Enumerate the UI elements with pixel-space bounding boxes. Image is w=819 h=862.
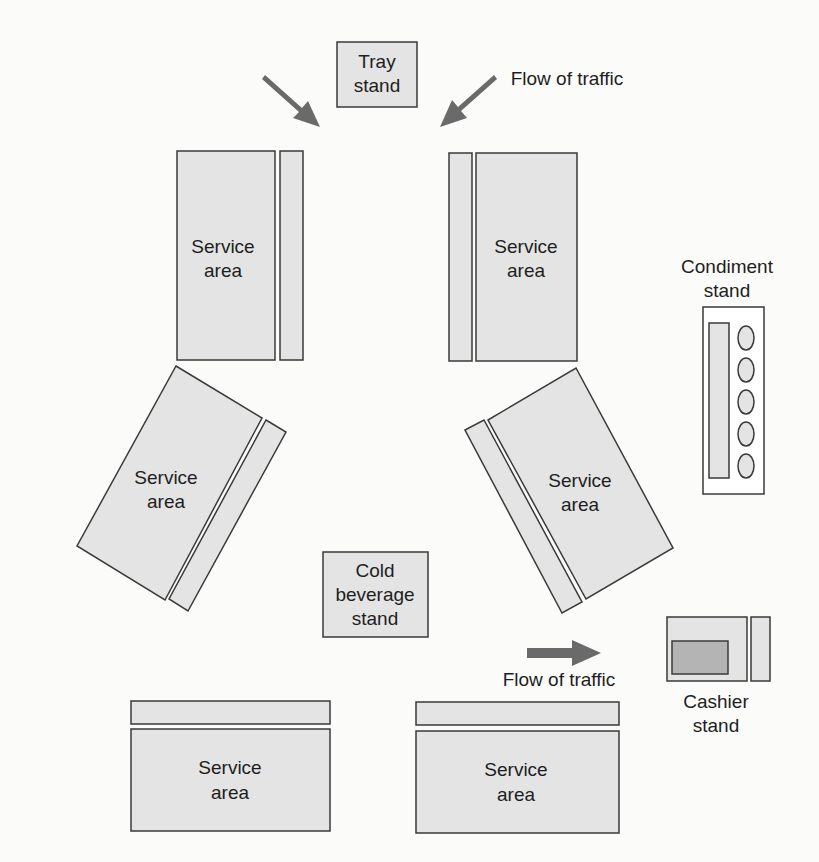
service-area-label-2: area [507,260,545,281]
condiment-stand: Condiment stand [681,256,774,494]
condiment-container [738,422,754,446]
flow-arrow-top-left [262,75,320,127]
cashier-counter-strip [751,617,770,681]
cashier-stand-label-1: Cashier [683,691,749,712]
serving-counter-strip [416,702,619,725]
cash-register [672,641,728,674]
service-area-label-2: area [147,491,185,512]
service-area-mid-right: Service area [465,368,673,613]
cashier-stand-label-2: stand [693,715,739,736]
serving-counter-strip [280,151,303,360]
flow-arrow-top-right [440,75,497,127]
flow-of-traffic-label-bottom: Flow of traffic [503,669,616,690]
service-area-label-1: Service [191,236,254,257]
serving-counter-strip [449,153,472,361]
cold-beverage-stand: Cold beverage stand [323,552,428,637]
service-area-label-1: Service [494,236,557,257]
service-area-label-1: Service [548,470,611,491]
condiment-container [738,358,754,382]
serving-counter-strip [131,701,330,724]
condiment-stand-label-1: Condiment [681,256,774,277]
service-area-label-1: Service [484,759,547,780]
service-area-label-2: area [497,784,535,805]
service-area-label-2: area [204,260,242,281]
service-area-label-2: area [211,782,249,803]
service-area-mid-left: Service area [77,366,286,611]
condiment-container [738,454,754,478]
cold-beverage-label-3: stand [352,608,398,629]
cold-beverage-label-2: beverage [335,584,414,605]
service-area-top-left: Service area [177,151,303,360]
service-area-top-right: Service area [449,153,577,361]
service-area-label-2: area [561,494,599,515]
tray-stand: Tray stand [337,42,417,107]
service-area-label-1: Service [134,467,197,488]
service-area-bottom-left: Service area [131,701,330,831]
cashier-stand: Cashier stand [667,617,770,736]
condiment-container [738,390,754,414]
cold-beverage-label-1: Cold [355,560,394,581]
flow-arrow-bottom [527,640,601,666]
condiment-tray [709,323,729,478]
condiment-container [738,326,754,350]
service-area-label-1: Service [198,757,261,778]
tray-stand-label-2: stand [354,75,400,96]
service-area-bottom-right: Service area [416,702,619,833]
tray-stand-label-1: Tray [358,51,396,72]
condiment-stand-label-2: stand [704,280,750,301]
flow-of-traffic-label-top: Flow of traffic [511,68,624,89]
cafeteria-layout-diagram: Tray stand Flow of traffic Service area … [0,0,819,862]
